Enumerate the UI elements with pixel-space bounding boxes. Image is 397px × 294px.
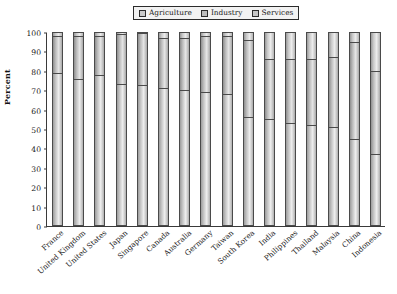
bar-india[interactable] [264,32,275,226]
chart-legend: Agriculture Industry Services [133,6,299,20]
bar-segment-industry [222,36,233,94]
bar-segment-industry [179,38,190,90]
bar-segment-agriculture [349,32,360,42]
bar-segment-agriculture [243,32,254,40]
bar-thailand[interactable] [306,32,317,226]
legend-swatch-services [252,10,259,17]
bar-indonesia[interactable] [370,32,381,226]
legend-swatch-agriculture [139,10,146,17]
bar-segment-services [285,123,296,226]
bar-segment-services [328,127,339,226]
bar-segment-services [370,154,381,226]
bars-layer [47,33,385,226]
bar-segment-services [349,139,360,226]
bar-segment-services [137,85,148,226]
legend-entry-agriculture: Agriculture [139,9,192,17]
bar-segment-industry [94,36,105,75]
bar-segment-industry [200,36,211,92]
bar-segment-services [158,88,169,226]
bar-segment-services [243,117,254,226]
bar-germany[interactable] [200,32,211,226]
legend-label-agriculture: Agriculture [149,9,192,17]
bar-segment-agriculture [264,32,275,59]
bar-united-kingdom[interactable] [73,32,84,226]
bar-segment-industry [73,36,84,79]
y-axis-title: Percent [2,69,12,105]
bar-philippines[interactable] [285,32,296,226]
bar-segment-services [264,119,275,226]
bar-france[interactable] [52,32,63,226]
bar-australia[interactable] [179,32,190,226]
bar-segment-industry [328,57,339,127]
bar-segment-industry [137,33,148,85]
bar-segment-industry [158,38,169,88]
legend-label-industry: Industry [211,9,243,17]
bar-malaysia[interactable] [328,32,339,226]
bar-singapore[interactable] [137,32,148,226]
plot-area: 0102030405060708090100 [46,33,385,227]
bar-segment-industry [52,36,63,73]
legend-entry-services: Services [252,9,294,17]
x-axis-labels: FranceUnited KingdomUnited StatesJapanSi… [46,229,385,294]
bar-segment-industry [285,59,296,123]
bar-segment-industry [306,59,317,125]
bar-segment-services [200,92,211,226]
bar-segment-services [94,75,105,226]
bar-segment-industry [243,40,254,118]
bar-segment-agriculture [306,32,317,59]
bar-canada[interactable] [158,32,169,226]
bar-segment-services [52,73,63,226]
bar-segment-industry [370,71,381,154]
bar-south-korea[interactable] [243,32,254,226]
bar-segment-services [222,94,233,226]
bar-china[interactable] [349,32,360,226]
legend-label-services: Services [262,9,294,17]
bar-segment-agriculture [370,32,381,71]
stacked-bar-chart: Agriculture Industry Services Percent 01… [0,0,397,294]
bar-segment-services [73,79,84,226]
y-tick-mark [44,227,47,228]
bar-segment-industry [116,34,127,84]
bar-segment-industry [264,59,275,119]
legend-entry-industry: Industry [201,9,243,17]
bar-segment-services [306,125,317,226]
legend-swatch-industry [201,10,208,17]
bar-segment-industry [349,42,360,139]
bar-japan[interactable] [116,32,127,226]
bar-united-states[interactable] [94,32,105,226]
bar-segment-services [116,84,127,226]
bar-taiwan[interactable] [222,32,233,226]
bar-segment-agriculture [328,32,339,57]
bar-segment-agriculture [285,32,296,59]
bar-segment-services [179,90,190,226]
